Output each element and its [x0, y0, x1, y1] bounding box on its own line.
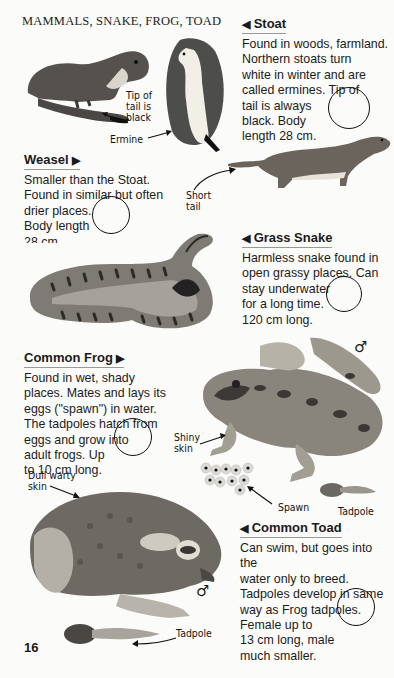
left-arrow-icon: ◀ [240, 522, 248, 534]
right-arrow-icon: ▶ [72, 154, 80, 166]
toad-tadpole-arrow [128, 634, 178, 650]
left-arrow-icon: ◀ [242, 232, 250, 244]
grass-snake-heading: ◀ Grass Snake [242, 230, 332, 248]
grass-snake-illustration [22, 228, 216, 338]
male-symbol-toad: ♂ [196, 582, 209, 600]
left-arrow-icon: ◀ [242, 18, 250, 30]
ermine-arrow [146, 128, 174, 142]
short-tail-arrow [190, 166, 240, 192]
stoat-heading: ◀ Stoat [242, 16, 286, 34]
common-frog-description: Found in wet, shadyplaces. Mates and lay… [24, 371, 194, 479]
tip-of-tail-arrow [100, 108, 130, 124]
toad-tadpole-label: Tadpole [176, 628, 212, 639]
common-toad-entry: ◀ Common Toad Can swim, but goes into th… [240, 518, 392, 664]
short-tail-label: Shorttail [186, 190, 211, 212]
stoat-tick-circle[interactable] [328, 87, 370, 129]
grass-snake-description: Harmless snake found inopen grassy place… [242, 251, 392, 328]
common-frog-heading: Common Frog ▶ [24, 350, 124, 368]
ermine-label: Ermine [110, 134, 143, 145]
common-toad-tick-circle[interactable] [337, 588, 375, 626]
frog-tadpole-illustration [318, 478, 378, 500]
common-toad-illustration [20, 486, 226, 626]
right-arrow-icon: ▶ [116, 352, 124, 364]
shiny-skin-arrow [198, 412, 228, 448]
weasel-heading: Weasel ▶ [24, 152, 80, 170]
stoat-description: Found in woods, farmland.Northern stoats… [242, 37, 392, 145]
common-toad-heading: ◀ Common Toad [240, 520, 342, 538]
frog-tadpole-label: Tadpole [338, 506, 374, 517]
common-frog-tick-circle[interactable] [114, 418, 152, 456]
stoat-entry: ◀ Stoat Found in woods, farmland.Norther… [242, 14, 392, 145]
spawn-arrow [244, 484, 274, 506]
page-number: 16 [24, 640, 38, 655]
spawn-label: Spawn [278, 502, 309, 513]
running-head: MAMMALS, SNAKE, FROG, TOAD [22, 14, 221, 29]
grass-snake-tick-circle[interactable] [326, 276, 362, 312]
grass-snake-entry: ◀ Grass Snake Harmless snake found inope… [242, 228, 392, 328]
weasel-illustration [224, 130, 394, 192]
male-symbol-frog: ♂ [354, 338, 367, 356]
common-frog-entry: Common Frog ▶ Found in wet, shadyplaces.… [24, 348, 194, 479]
shiny-skin-label: Shinyskin [174, 432, 200, 454]
